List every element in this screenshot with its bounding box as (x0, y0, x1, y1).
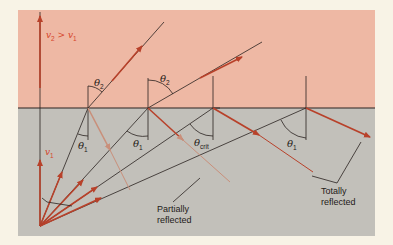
partially-reflected-label: Partiallyreflected (157, 204, 192, 225)
lower-medium (18, 108, 375, 236)
upper-medium (18, 10, 375, 108)
refraction-diagram: v2 > v1 v1 θ2 θ2 θ1 θ1 θcrit θ1 Partiall… (0, 0, 393, 245)
